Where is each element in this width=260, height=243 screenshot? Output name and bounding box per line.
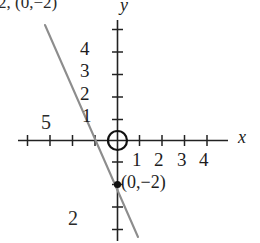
- y-intercept-annotation: (0,−2): [121, 173, 166, 191]
- x-tick-label-2: 2: [154, 150, 164, 169]
- cropped-top-text-fragment: 2, (0,−2): [0, 0, 57, 11]
- y-axis-label: y: [120, 0, 128, 14]
- stray-label-five: 5: [41, 112, 51, 132]
- y-tick-label-2: 2: [80, 84, 90, 103]
- x-tick-label-3: 3: [177, 150, 187, 169]
- x-tick-label-1: 1: [132, 150, 142, 169]
- y-tick-label-3: 3: [80, 61, 90, 80]
- x-axis-label: x: [238, 128, 246, 146]
- plotted-line: [45, 25, 138, 237]
- coordinate-plane-svg: [0, 0, 260, 243]
- x-tick-label-4: 4: [199, 150, 209, 169]
- graph-figure: 2, (0,−2) y x 4 3 2 1 1 2 3 4 (0,−2) 5 2: [0, 0, 260, 243]
- y-tick-label-1: 1: [82, 106, 92, 125]
- x-axis: [18, 135, 228, 146]
- y-tick-label-4: 4: [80, 39, 90, 58]
- stray-label-two: 2: [68, 208, 78, 228]
